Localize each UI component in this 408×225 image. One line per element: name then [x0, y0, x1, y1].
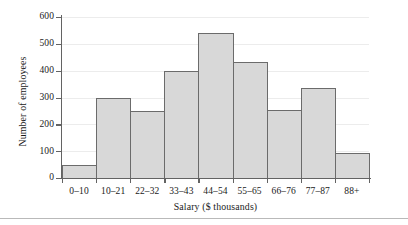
x-tick-mark	[130, 178, 131, 183]
y-tick-mark	[56, 151, 62, 152]
y-tick-mark	[56, 44, 62, 45]
y-tick-label: 300	[39, 93, 54, 103]
histogram-bar	[198, 33, 233, 178]
x-tick-label: 44–54	[198, 186, 232, 196]
x-tick-mark	[233, 178, 234, 183]
histogram-bar	[267, 110, 302, 178]
histogram-bar	[233, 62, 268, 178]
x-tick-label: 33–43	[164, 186, 198, 196]
x-axis-line	[61, 178, 371, 179]
histogram-bar	[335, 153, 370, 178]
x-axis-title: Salary ($ thousands)	[62, 201, 369, 212]
y-tick-label: 600	[39, 12, 54, 22]
x-tick-mark	[198, 178, 199, 183]
plot-area	[62, 17, 369, 178]
x-tick-mark	[369, 178, 370, 183]
x-tick-mark	[62, 178, 63, 183]
y-tick-mark	[56, 17, 62, 18]
y-tick-label: 500	[39, 39, 54, 49]
y-tick-label: 400	[39, 66, 54, 76]
x-tick-mark	[301, 178, 302, 183]
y-tick-label: 100	[39, 147, 54, 157]
x-tick-mark	[267, 178, 268, 183]
x-tick-label: 22–32	[130, 186, 164, 196]
x-tick-label: 88+	[335, 186, 369, 196]
x-tick-mark	[96, 178, 97, 183]
y-axis-title: Number of employees	[17, 22, 28, 182]
x-tick-mark	[164, 178, 165, 183]
x-tick-mark	[335, 178, 336, 183]
histogram-figure: 0100200300400500600 0–1010–2122–3233–434…	[0, 0, 408, 225]
x-tick-label: 66–76	[267, 186, 301, 196]
x-tick-label: 55–65	[233, 186, 267, 196]
y-tick-label: 0	[49, 173, 54, 183]
x-tick-label: 77–87	[301, 186, 335, 196]
histogram-bar	[164, 71, 199, 178]
y-tick-mark	[56, 124, 62, 125]
histogram-bar	[130, 111, 165, 178]
histogram-bar	[301, 88, 336, 178]
y-tick-label: 200	[39, 120, 54, 130]
y-tick-mark	[56, 71, 62, 72]
bar-series	[62, 17, 369, 178]
page-rule	[0, 218, 408, 219]
histogram-bar	[96, 98, 131, 179]
y-tick-mark	[56, 98, 62, 99]
histogram-bar	[62, 165, 97, 178]
x-tick-label: 10–21	[96, 186, 130, 196]
x-tick-label: 0–10	[62, 186, 96, 196]
